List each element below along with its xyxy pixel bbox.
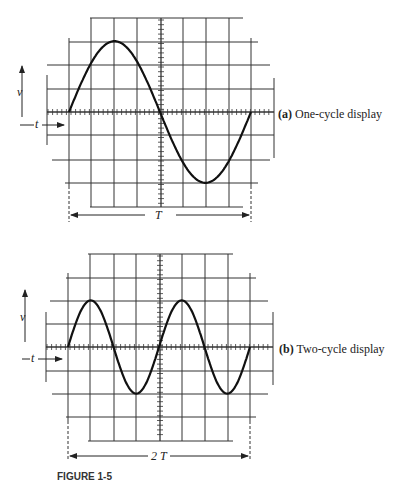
panel-b-label: (b) Two-cycle display [279, 342, 385, 357]
panel-a-period-label: T [155, 208, 162, 223]
panel-a-title: One-cycle display [295, 107, 382, 121]
panel-b-graticule [46, 254, 273, 460]
panel-b-t-label: t [31, 351, 34, 366]
panel-b-period-label: 2 T [151, 449, 167, 464]
panel-a-letter: (a) [278, 107, 292, 121]
panel-b-ticks [47, 256, 268, 435]
panel-b-title: Two-cycle display [296, 342, 384, 356]
figure-caption: FIGURE 1-5 [57, 471, 112, 482]
panel-a-label: (a) One-cycle display [278, 107, 382, 122]
panel-a-v-label: v [17, 85, 22, 100]
panel-b-letter: (b) [279, 342, 294, 356]
panel-a-t-label: t [35, 117, 38, 132]
panel-b-v-label: v [20, 310, 25, 325]
